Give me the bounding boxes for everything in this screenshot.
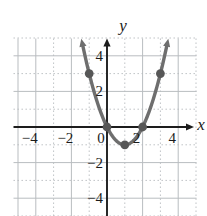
data-point <box>120 140 129 149</box>
curve-arrow-left-icon <box>79 39 86 48</box>
data-point <box>85 69 94 78</box>
y-tick-label: −2 <box>87 155 103 171</box>
y-tick-label: 2 <box>96 83 104 99</box>
y-tick-label: −4 <box>87 190 103 206</box>
curve-arrow-right-icon <box>163 39 170 48</box>
x-axis-label: x <box>196 115 205 134</box>
x-tick-label: 0 <box>97 130 105 146</box>
x-tick-label: −2 <box>57 130 73 146</box>
x-tick-label: 2 <box>133 130 141 146</box>
y-axis-arrow-icon <box>103 39 110 47</box>
parabola-graph: −4−202442−2−4xy <box>0 0 207 216</box>
graph-panel: −4−202442−2−4xy <box>0 0 207 216</box>
x-tick-label: 4 <box>168 130 176 146</box>
y-axis-label: y <box>117 16 127 35</box>
data-point <box>156 69 165 78</box>
x-axis-arrow-icon <box>186 123 194 130</box>
y-tick-label: 4 <box>96 48 104 64</box>
x-tick-label: −4 <box>22 130 38 146</box>
